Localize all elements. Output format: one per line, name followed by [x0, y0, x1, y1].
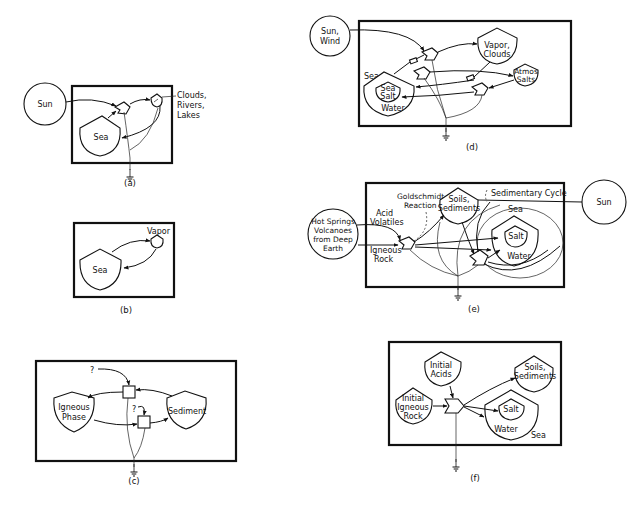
igneous-label-2: Rock [374, 255, 393, 264]
hot-label-4: Earth [323, 244, 343, 253]
salt-label: Salt [503, 405, 518, 414]
igneous-label-1: Igneous [370, 246, 402, 255]
caption-d: (d) [466, 142, 478, 152]
rock-label-3: Rock [403, 412, 422, 421]
panel-c: Igneous Phase Sediment ? ? (c) [36, 361, 236, 486]
clouds-label-2: Rivers, [177, 101, 204, 110]
panel-e: Hot Springs Volcanoes from Deep Earth Ac… [308, 180, 626, 314]
soils-label-1: Soils, [524, 363, 545, 372]
hot-label-1: Hot Springs [311, 217, 355, 226]
vapor-label-2: Clouds [483, 50, 510, 59]
igneous-label-1: Igneous [58, 403, 90, 412]
diagram-canvas: Sun Sea Clouds, Rivers, Lakes (a) Sea Va… [0, 0, 642, 509]
panel-f: Initial Acids Initial Igneous Rock Soils… [389, 342, 561, 483]
soils-label-1: Soils, [448, 195, 469, 204]
sun-label: Sun [596, 198, 611, 207]
question-mark-1: ? [90, 366, 94, 375]
upper-work-gate [123, 386, 135, 398]
interaction-symbol [115, 102, 130, 114]
sea-label: Sea [93, 266, 108, 275]
sea-label: Sea [94, 133, 109, 142]
weathering-interaction [470, 250, 488, 265]
sun-label-2: Wind [320, 37, 340, 46]
panel-b: Sea Vapor (b) [74, 223, 174, 315]
acids-label-2: Acids [430, 370, 451, 379]
sun-label: Sun [37, 100, 52, 109]
caption-b: (b) [120, 305, 132, 315]
gold-label-2: Reaction [404, 201, 437, 210]
caption-a: (a) [124, 178, 136, 188]
sediment-label: Sediment [168, 407, 206, 416]
sea-label: Sea [531, 431, 546, 440]
clouds-label-1: Clouds, [177, 91, 207, 100]
igneous-label-2: Phase [62, 413, 86, 422]
soils-label-2: Sediments [438, 204, 480, 213]
vapor-label: Vapor [147, 227, 171, 236]
sedimentary-cycle-label: Sedimentary Cycle [491, 189, 567, 198]
vapor-label-1: Vapor, [484, 41, 510, 50]
hot-label-3: from Deep [313, 235, 353, 244]
lower-work-gate [138, 416, 150, 428]
atmos-label-2: Salts [517, 75, 535, 84]
panel-d: Sun, Wind Sea Sea Salt Water Vapor, Clou… [310, 16, 571, 152]
weathering-interaction [445, 399, 464, 413]
panel-a: Sun Sea Clouds, Rivers, Lakes (a) [24, 83, 207, 188]
question-mark-2: ? [132, 405, 136, 414]
spray-interaction [414, 67, 430, 79]
water-label: Water [507, 252, 531, 261]
sea-label: Sea [508, 205, 523, 214]
acid-label-1: Acid [376, 209, 393, 218]
caption-f: (f) [470, 473, 480, 483]
sun-label-1: Sun, [321, 27, 339, 36]
gold-label-1: Goldschmidt [397, 192, 444, 201]
hot-label-2: Volcanoes [314, 226, 352, 235]
salt-label: Salt [508, 232, 523, 241]
caption-c: (c) [128, 476, 139, 486]
sun-wind-source [310, 16, 350, 56]
soils-label-2: Sediments [514, 372, 556, 381]
vapor-storage [151, 235, 163, 248]
acids-label-1: Initial [430, 361, 452, 370]
water-label: Water [381, 104, 405, 113]
rock-label-2: Igneous [397, 403, 429, 412]
water-label: Water [494, 425, 518, 434]
acid-label-2: Volatiles [370, 218, 404, 227]
evaporation-interaction [422, 48, 438, 60]
caption-e: (e) [468, 304, 480, 314]
seasalt-label-2: Salt [380, 92, 395, 101]
clouds-label-3: Lakes [177, 111, 200, 120]
rock-label-1: Initial [402, 394, 424, 403]
fallout-interaction [472, 83, 488, 95]
